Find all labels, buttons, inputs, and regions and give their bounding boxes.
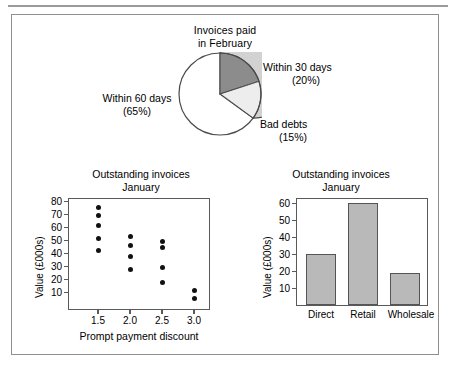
bar-ytick-40: 40 (268, 233, 290, 243)
scatter-title-line-2: January (122, 181, 159, 193)
scatter-xtick-4: 3.0 (176, 316, 212, 326)
scatter-ytick-20: 20 (40, 275, 62, 285)
figure-page: Invoices paid in February Within 30 days… (0, 0, 456, 369)
pie-label-within-60-days-pct: (65%) (123, 105, 151, 117)
bar-ytick-mark-50 (292, 220, 296, 221)
pie-label-within-30-days-pct: (20%) (263, 74, 349, 87)
scatter-xtick-2: 2.0 (112, 316, 148, 326)
scatter-point (160, 280, 165, 285)
top-divider-rule (8, 5, 448, 7)
scatter-ytick-40: 40 (40, 249, 62, 259)
scatter-ytick-mark-20 (64, 279, 68, 280)
scatter-chart-title: Outstanding invoices January (62, 168, 220, 194)
bar-title-line-1: Outstanding invoices (292, 168, 389, 180)
scatter-point (192, 296, 197, 301)
scatter-ytick-mark-30 (64, 266, 68, 267)
scatter-xtick-1: 1.5 (80, 316, 116, 326)
scatter-plot-area (68, 198, 210, 310)
scatter-x-axis-label: Prompt payment discount (58, 330, 220, 342)
scatter-ytick-60: 60 (40, 223, 62, 233)
scatter-xtick-mark-3 (161, 310, 162, 314)
scatter-xtick-mark-4 (193, 310, 194, 314)
scatter-point (128, 234, 133, 239)
scatter-xtick-mark-1 (97, 310, 98, 314)
pie-label-within-60-days-name: Within 60 days (103, 92, 172, 104)
pie-chart-panel: Invoices paid in February Within 30 days… (11, 14, 439, 159)
bar-retail (348, 203, 378, 305)
scatter-ytick-mark-40 (64, 253, 68, 254)
scatter-ytick-10: 10 (40, 288, 62, 298)
pie-chart-title: Invoices paid in February (11, 24, 439, 50)
bar-ytick-mark-60 (292, 203, 296, 204)
bar-ytick-mark-40 (292, 237, 296, 238)
scatter-point (192, 288, 197, 293)
bar-ytick-20: 20 (268, 267, 290, 277)
scatter-point (96, 248, 101, 253)
scatter-point (96, 213, 101, 218)
bar-ytick-mark-20 (292, 271, 296, 272)
scatter-title-line-1: Outstanding invoices (92, 168, 189, 180)
scatter-ytick-mark-80 (64, 201, 68, 202)
scatter-xtick-3: 2.5 (144, 316, 180, 326)
pie-graphic (178, 52, 262, 136)
pie-label-bad-debts-pct: (15%) (260, 131, 326, 144)
scatter-xtick-mark-2 (129, 310, 130, 314)
bar-title-line-2: January (322, 181, 359, 193)
pie-label-within-30-days-name: Within 30 days (263, 61, 332, 73)
scatter-point (96, 223, 101, 228)
scatter-point (96, 236, 101, 241)
bar-xtick-wholesale: Wholesale (382, 310, 440, 320)
scatter-point (128, 254, 133, 259)
bar-ytick-30: 30 (268, 250, 290, 260)
scatter-point (128, 267, 133, 272)
pie-svg (178, 52, 262, 136)
pie-title-line-2: in February (198, 37, 252, 49)
bar-xtick-direct: Direct (296, 310, 346, 320)
scatter-ytick-mark-60 (64, 227, 68, 228)
scatter-ytick-mark-70 (64, 214, 68, 215)
scatter-point (160, 265, 165, 270)
pie-label-within-30-days: Within 30 days (20%) (263, 61, 349, 87)
bar-ytick-50: 50 (268, 216, 290, 226)
bar-chart-title: Outstanding invoices January (262, 168, 420, 194)
scatter-point (128, 243, 133, 248)
bar-direct (306, 254, 336, 305)
scatter-point (96, 205, 101, 210)
pie-title-line-1: Invoices paid (194, 24, 257, 36)
bar-ytick-10: 10 (268, 284, 290, 294)
bar-wholesale (390, 273, 420, 305)
scatter-point (160, 245, 165, 250)
scatter-point (160, 239, 165, 244)
bar-xtick-retail: Retail (340, 310, 386, 320)
bar-ytick-mark-10 (292, 288, 296, 289)
scatter-ytick-30: 30 (40, 262, 62, 272)
pie-label-within-60-days: Within 60 days (65%) (85, 92, 189, 118)
pie-label-bad-debts: Bad debts (15%) (260, 118, 326, 144)
scatter-ytick-50: 50 (40, 236, 62, 246)
scatter-ytick-70: 70 (40, 210, 62, 220)
bar-ytick-60: 60 (268, 199, 290, 209)
scatter-ytick-mark-50 (64, 240, 68, 241)
scatter-ytick-80: 80 (40, 197, 62, 207)
scatter-ytick-mark-10 (64, 292, 68, 293)
pie-label-bad-debts-name: Bad debts (260, 118, 307, 130)
bar-ytick-mark-30 (292, 254, 296, 255)
